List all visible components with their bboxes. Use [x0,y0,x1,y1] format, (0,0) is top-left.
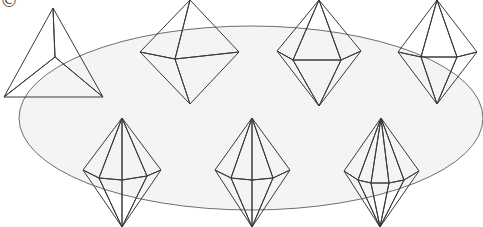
oval-set-boundary [19,26,483,210]
upper-face [421,0,457,57]
bipyramid-diagram: © tetrahedronsquare bipyramid (octahedro… [0,0,483,227]
upper-face [437,0,477,57]
diagram-canvas: tetrahedronsquare bipyramid (octahedron)… [0,0,483,227]
corner-glyph: © [0,0,18,11]
